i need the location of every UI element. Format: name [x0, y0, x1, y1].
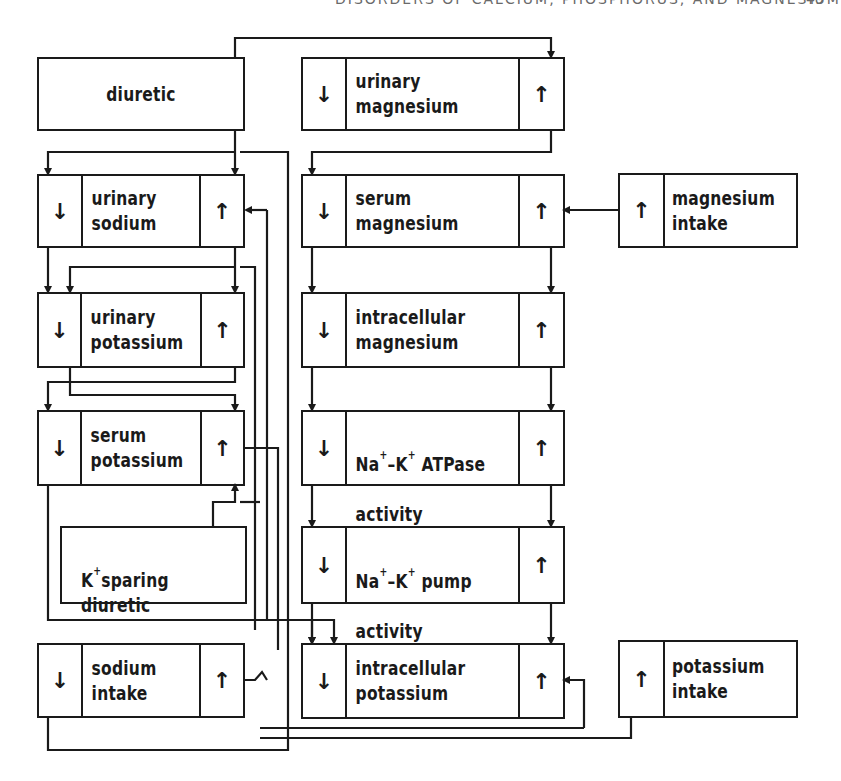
pump-activity-box: ↓ Na+–K+ pump activity ↑ — [301, 526, 565, 604]
diuretic-label: diuretic — [53, 59, 228, 129]
potassium-intake-box: ↑ potassium intake — [618, 640, 798, 718]
increase-arrow-icon: ↑ — [518, 412, 563, 484]
urinary-potassium-label: urinary potassium — [82, 294, 183, 366]
decrease-arrow-icon: ↓ — [39, 176, 83, 246]
increase-arrow-icon: ↑ — [620, 175, 665, 246]
arrow-diuretic-to-urinary-magnesium — [235, 38, 551, 57]
decrease-arrow-icon: ↓ — [303, 528, 347, 602]
increase-arrow-icon: ↑ — [200, 294, 243, 366]
decrease-arrow-icon: ↓ — [39, 294, 82, 366]
k-sparing-diuretic-box: K+sparing diuretic — [60, 526, 247, 604]
decrease-arrow-icon: ↓ — [39, 412, 82, 484]
increase-arrow-icon: ↑ — [518, 645, 563, 717]
increase-arrow-icon: ↑ — [620, 642, 665, 716]
sodium-intake-box: ↓ sodium intake ↑ — [37, 643, 245, 718]
pump-activity-label: Na+–K+ pump activity — [347, 528, 494, 602]
decrease-arrow-icon: ↓ — [39, 645, 83, 716]
urinary-magnesium-label: urinary magnesium — [347, 59, 494, 129]
intracellular-potassium-box: ↓ intracellular potassium ↑ — [301, 643, 565, 719]
decrease-arrow-icon: ↓ — [303, 645, 347, 717]
increase-arrow-icon: ↑ — [518, 59, 563, 129]
urinary-potassium-box: ↓ urinary potassium ↑ — [37, 292, 245, 368]
urinary-sodium-box: ↓ urinary sodium ↑ — [37, 174, 245, 248]
increase-arrow-icon: ↑ — [199, 645, 243, 716]
diuretic-box: diuretic — [37, 57, 245, 131]
serum-potassium-label: serum potassium — [82, 412, 183, 484]
magnesium-intake-box: ↑ magnesium intake — [618, 173, 798, 248]
atpase-activity-box: ↓ Na+–K+ ATPase activity ↑ — [301, 410, 565, 486]
intracellular-potassium-label: intracellular potassium — [347, 645, 494, 717]
potassium-intake-label: potassium intake — [665, 642, 778, 716]
serum-magnesium-label: serum magnesium — [347, 176, 494, 246]
serum-potassium-box: ↓ serum potassium ↑ — [37, 410, 245, 486]
increase-arrow-icon: ↑ — [199, 176, 243, 246]
increase-arrow-icon: ↑ — [200, 412, 243, 484]
intracellular-magnesium-box: ↓ intracellular magnesium ↑ — [301, 292, 565, 368]
atpase-activity-label: Na+–K+ ATPase activity — [347, 412, 494, 484]
urinary-magnesium-box: ↓ urinary magnesium ↑ — [301, 57, 565, 131]
intracellular-magnesium-label: intracellular magnesium — [347, 294, 494, 366]
increase-arrow-icon: ↑ — [518, 294, 563, 366]
decrease-arrow-icon: ↓ — [303, 294, 347, 366]
serum-magnesium-box: ↓ serum magnesium ↑ — [301, 174, 565, 248]
increase-arrow-icon: ↑ — [518, 176, 563, 246]
decrease-arrow-icon: ↓ — [303, 412, 347, 484]
sodium-intake-label: sodium intake — [83, 645, 183, 716]
urinary-sodium-label: urinary sodium — [83, 176, 183, 246]
k-sparing-diuretic-label: K+sparing diuretic — [62, 528, 219, 602]
increase-arrow-icon: ↑ — [518, 528, 563, 602]
decrease-arrow-icon: ↓ — [303, 176, 347, 246]
magnesium-intake-label: magnesium intake — [665, 175, 778, 246]
decrease-arrow-icon: ↓ — [303, 59, 347, 129]
